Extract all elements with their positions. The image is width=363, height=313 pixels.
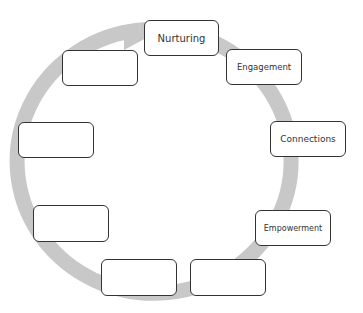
node-label: Engagement — [237, 62, 291, 72]
node-blank-left-top — [62, 50, 138, 86]
node-connections: Connections — [270, 121, 346, 157]
node-blank-left-middle — [18, 122, 94, 158]
node-label: Nurturing — [158, 33, 206, 44]
node-label: Empowerment — [264, 224, 322, 233]
node-blank-left-lower — [33, 205, 109, 242]
node-engagement: Engagement — [226, 49, 302, 85]
node-blank-bottom-left — [101, 259, 177, 296]
node-empowerment: Empowerment — [255, 210, 331, 246]
node-label: Connections — [280, 134, 336, 144]
node-blank-bottom-right — [190, 259, 266, 296]
node-nurturing: Nurturing — [144, 20, 219, 56]
